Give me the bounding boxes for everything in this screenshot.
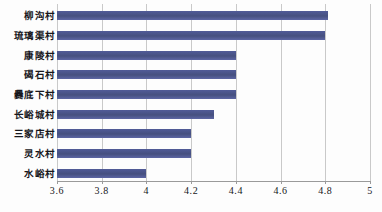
x-tick-label: 4	[144, 184, 150, 198]
x-tick-mark	[236, 181, 237, 184]
bar	[57, 129, 191, 138]
category-label: 碣石村	[0, 70, 55, 80]
x-tick-mark	[191, 181, 192, 184]
x-tick-mark	[57, 181, 58, 184]
x-tick-label: 4.2	[184, 184, 198, 198]
gridline-5	[370, 4, 371, 181]
category-label: 灵水村	[0, 149, 55, 159]
x-tick-label: 4.6	[273, 184, 287, 198]
x-tick-label: 4.4	[229, 184, 243, 198]
x-axis-line	[57, 181, 370, 182]
gridline-4.8	[325, 4, 326, 181]
bar-chart: 柳沟村琉璃渠村康陵村碣石村爨底下村长峪城村三家店村灵水村水峪村 3.63.844…	[0, 0, 382, 212]
plot-area	[57, 4, 370, 181]
x-tick-label: 3.8	[95, 184, 109, 198]
bar	[57, 31, 325, 40]
category-label: 水峪村	[0, 169, 55, 179]
x-tick-mark	[370, 181, 371, 184]
x-tick-label: 3.6	[50, 184, 64, 198]
category-label: 康陵村	[0, 51, 55, 61]
x-tick-mark	[325, 181, 326, 184]
x-tick-mark	[146, 181, 147, 184]
category-label: 琉璃渠村	[0, 31, 55, 41]
bar	[57, 169, 146, 178]
x-tick-mark	[102, 181, 103, 184]
x-tick-label: 4.8	[318, 184, 332, 198]
category-label: 长峪城村	[0, 110, 55, 120]
bar	[57, 11, 328, 20]
category-label: 爨底下村	[0, 90, 55, 100]
bar	[57, 51, 236, 60]
x-tick-mark	[281, 181, 282, 184]
bar	[57, 110, 214, 119]
x-axis-ticks: 3.63.844.24.44.64.85	[0, 184, 382, 202]
category-label: 柳沟村	[0, 11, 55, 21]
x-tick-label: 5	[367, 184, 373, 198]
category-axis: 柳沟村琉璃渠村康陵村碣石村爨底下村长峪城村三家店村灵水村水峪村	[0, 8, 55, 181]
bar	[57, 90, 236, 99]
bar	[57, 149, 191, 158]
category-label: 三家店村	[0, 129, 55, 139]
bar	[57, 70, 236, 79]
